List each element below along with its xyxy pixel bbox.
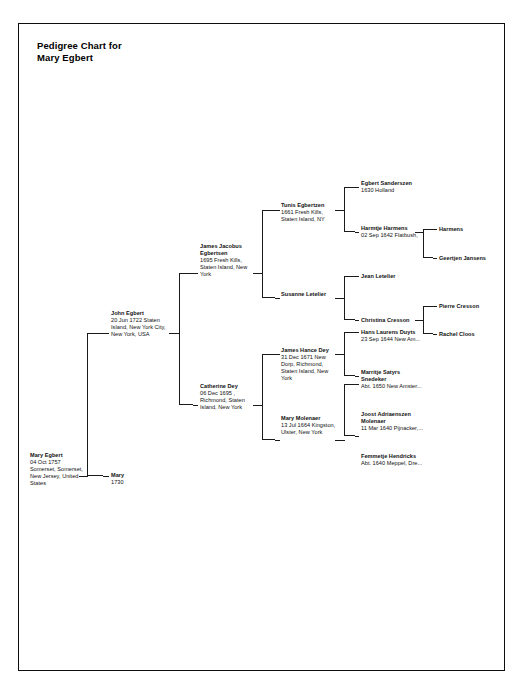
connector-stub-gen5-ffmf (355, 276, 359, 277)
person-node-gen4-fmm[interactable]: Mary Molenaer 13 Jul 1664 Kingston, Ulst… (281, 415, 351, 436)
connector-stub-gen3-fm (193, 405, 198, 406)
connector-stub-gen4-ffm (275, 298, 280, 299)
person-details: 20 Jun 1722 Staten Island, New York City… (111, 317, 179, 338)
connector-stub-gen5-fmmf (355, 384, 359, 385)
connector-stub-gen4-fff (275, 210, 280, 211)
person-node-gen2-father[interactable]: John Egbert 20 Jun 1722 Staten Island, N… (111, 310, 179, 338)
person-details: 1695 Fresh Kills, Staten Island, New Yor… (200, 257, 264, 278)
connector-stub-gen4fmm (335, 440, 345, 441)
connector-stub-gen4ffm (335, 298, 345, 299)
person-node-gen4-fmf[interactable]: James Hance Dey 31 Dec 1671 New Dorp, Ri… (281, 347, 349, 382)
pedigree-chart-page: Pedigree Chart for Mary Egbert (0, 0, 524, 693)
person-details: Abt. 1650 New Amster... (361, 383, 437, 390)
person-node-gen2-mother[interactable]: Mary 1730 (111, 472, 173, 486)
person-name: Harmtje Harmens (361, 225, 435, 232)
connector-stub-gen2-mother (103, 476, 109, 477)
person-node-gen6-d[interactable]: Rachel Cloos (439, 331, 501, 338)
person-node-gen5-ffmm[interactable]: Christina Cresson (361, 317, 435, 324)
person-name: James Jacobus Egbertsen (200, 243, 264, 257)
person-node-gen4-ffm[interactable]: Susanne Letelier (281, 291, 347, 298)
person-name: Rachel Cloos (439, 331, 501, 338)
person-node-gen6-a[interactable]: Harmens (439, 226, 501, 233)
person-details: 1630 Holland (361, 187, 435, 194)
person-node-gen5-ffff[interactable]: Egbert Sanderszen 1630 Holland (361, 180, 435, 194)
person-name: Harmens (439, 226, 501, 233)
chart-sheet: Pedigree Chart for Mary Egbert (18, 23, 505, 671)
person-node-gen1-self[interactable]: Mary Egbert 04 Oct 1757 Somerset, Somers… (30, 452, 92, 487)
person-name: Pierre Cresson (439, 303, 501, 310)
person-name: Mary Egbert (30, 452, 92, 459)
person-name: Mary (111, 472, 173, 479)
person-node-gen4-fff[interactable]: Tunis Egbertzen 1661 Fresh Kills, Staten… (281, 202, 347, 223)
person-details: 02 Sep 1642 Flatbush, (361, 232, 435, 239)
person-name: James Hance Dey (281, 347, 349, 354)
person-node-gen5-fmmf[interactable]: Joost Adriaenszen Molenaer 11 Mar 1640 P… (361, 411, 437, 432)
person-name: Tunis Egbertzen (281, 202, 347, 209)
connector-stub-gen4-fmf (275, 354, 280, 355)
person-name: Geertjen Jansens (439, 255, 501, 262)
connector-stub-gen5-fmfm (355, 376, 359, 377)
person-node-gen5-fmfm[interactable]: Marritje Satyrs Snedeker Abt. 1650 New A… (361, 369, 437, 390)
person-node-gen5-fmff[interactable]: Hans Laurens Duyts 23 Sep 1644 New Am... (361, 329, 437, 343)
connector-stub-gen5-fmmm (355, 436, 359, 437)
person-details: 06 Dec 1695 , Richmond, Staten Island, N… (200, 390, 264, 411)
person-name: Femmetje Hendricks (361, 453, 437, 460)
person-details: 1661 Fresh Kills, Staten Island, NY (281, 209, 347, 223)
connector-stub-gen6-c (433, 306, 437, 307)
person-details: 1730 (111, 479, 173, 486)
person-details: 04 Oct 1757 Somerset, Somerset, New Jers… (30, 459, 92, 487)
person-details: 23 Sep 1644 New Am... (361, 336, 437, 343)
person-node-gen3-fm[interactable]: Catherine Dey 06 Dec 1695 , Richmond, St… (200, 383, 264, 411)
pedigree-tree-canvas: Mary Egbert 04 Oct 1757 Somerset, Somers… (19, 24, 506, 672)
connector-stub-gen5-fmff (355, 332, 359, 333)
person-details: 11 Mar 1640 Pijnacker,... (361, 425, 437, 432)
person-node-gen3-ff[interactable]: James Jacobus Egbertsen 1695 Fresh Kills… (200, 243, 264, 278)
person-name: Catherine Dey (200, 383, 264, 390)
person-node-gen5-fffm[interactable]: Harmtje Harmens 02 Sep 1642 Flatbush, (361, 225, 435, 239)
person-name: Jean Letelier (361, 273, 435, 280)
connector-stub-gen2-father (103, 333, 109, 334)
person-node-gen5-ffmf[interactable]: Jean Letelier (361, 273, 435, 280)
connector-stub-gen3-ff (193, 273, 198, 274)
person-name: John Egbert (111, 310, 179, 317)
person-name: Mary Molenaer (281, 415, 351, 422)
connector-stub-gen4-fmm (275, 440, 280, 441)
person-name: Egbert Sanderszen (361, 180, 435, 187)
person-name: Joost Adriaenszen Molenaer (361, 411, 437, 425)
person-details: Abt. 1640 Meppel, Dre... (361, 460, 437, 467)
person-node-gen5-fmmm[interactable]: Femmetje Hendricks Abt. 1640 Meppel, Dre… (361, 453, 437, 467)
person-node-gen6-b[interactable]: Geertjen Jansens (439, 255, 501, 262)
person-details: 31 Dec 1671 New Dorp, Richmond, Staten I… (281, 354, 349, 382)
person-details: 13 Jul 1664 Kingston, Ulster, New York (281, 422, 351, 436)
connector-stub-gen5-ffmm (355, 320, 359, 321)
connector-stub-gen5-fffm (355, 232, 359, 233)
person-name: Christina Cresson (361, 317, 435, 324)
connector-stub-gen5-ffff (355, 187, 359, 188)
connector-gen2-to-gen3 (179, 273, 193, 405)
person-node-gen6-c[interactable]: Pierre Cresson (439, 303, 501, 310)
person-name: Marritje Satyrs Snedeker (361, 369, 437, 383)
person-name: Susanne Letelier (281, 291, 347, 298)
person-name: Hans Laurens Duyts (361, 329, 437, 336)
connector-stub-gen6-b (433, 258, 437, 259)
